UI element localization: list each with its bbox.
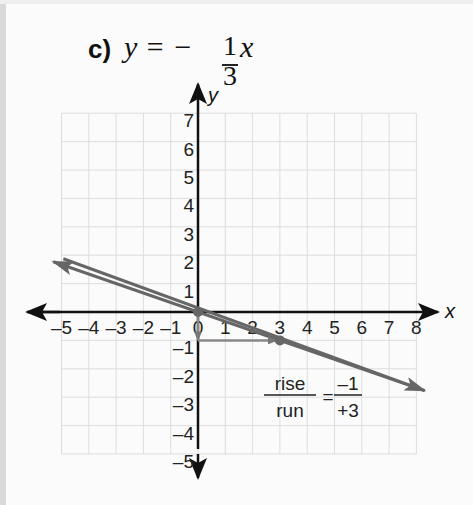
x-tick-label: –3: [106, 317, 127, 338]
rise-value: –1: [337, 373, 358, 394]
x-tick-label: –2: [133, 317, 154, 338]
x-tick-label: 5: [329, 317, 340, 338]
plotted-point: [275, 335, 285, 345]
y-tick-label: 1: [183, 281, 194, 302]
y-tick-label: 2: [183, 252, 194, 273]
x-tick-label: 4: [302, 317, 313, 338]
y-axis-label: y: [206, 84, 219, 106]
y-tick-label: –1: [173, 337, 194, 358]
y-tick-label: –2: [173, 366, 194, 387]
rise-label: rise: [275, 373, 306, 394]
x-tick-label: 7: [384, 317, 395, 338]
y-tick-label: –4: [173, 423, 195, 444]
y-tick-label: 5: [183, 167, 194, 188]
run-label: run: [276, 400, 303, 421]
coordinate-plane: xy–5–4–3–2–10123456787654321–1–2–3–4–5ri…: [0, 0, 473, 505]
x-tick-label: 8: [411, 317, 422, 338]
y-tick-label: –3: [173, 394, 194, 415]
y-tick-label: –5: [173, 451, 194, 472]
y-tick-label: 6: [183, 139, 194, 160]
plotted-point: [193, 307, 203, 317]
x-axis-label: x: [444, 300, 456, 322]
y-tick-label: 4: [183, 195, 194, 216]
x-tick-label: –4: [78, 317, 100, 338]
x-tick-label: –5: [51, 317, 72, 338]
y-tick-label: 3: [183, 224, 194, 245]
x-tick-label: –1: [160, 317, 181, 338]
run-value: +3: [337, 400, 359, 421]
x-tick-label: 3: [275, 317, 286, 338]
y-tick-label: 7: [183, 110, 194, 131]
equals-sign: =: [322, 386, 333, 407]
x-tick-label: 6: [357, 317, 368, 338]
